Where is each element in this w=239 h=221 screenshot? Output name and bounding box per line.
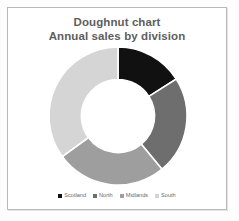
legend-swatch-scotland: [58, 194, 62, 198]
chart-legend: Scotland North Midlands South: [8, 193, 226, 199]
doughnut-plot-area: [8, 46, 228, 186]
chart-title-block: Doughnut chart Annual sales by division: [8, 15, 226, 43]
legend-item-midlands[interactable]: Midlands: [120, 193, 148, 199]
doughnut-slice-south[interactable]: [49, 47, 118, 157]
chart-screenshot: Doughnut chart Annual sales by division …: [0, 0, 239, 221]
chart-title: Doughnut chart: [8, 15, 226, 29]
legend-label-north: North: [99, 193, 113, 199]
legend-swatch-south: [155, 194, 159, 198]
legend-item-scotland[interactable]: Scotland: [58, 193, 86, 199]
legend-label-midlands: Midlands: [126, 193, 148, 199]
legend-item-south[interactable]: South: [155, 193, 176, 199]
chart-subtitle: Annual sales by division: [8, 29, 226, 43]
legend-label-south: South: [161, 193, 176, 199]
doughnut-slice-group: [49, 47, 187, 185]
legend-label-scotland: Scotland: [64, 193, 86, 199]
chart-frame: Doughnut chart Annual sales by division …: [7, 7, 227, 210]
legend-swatch-north: [93, 194, 97, 198]
doughnut-chart: [43, 46, 193, 186]
legend-item-north[interactable]: North: [93, 193, 113, 199]
legend-swatch-midlands: [120, 194, 124, 198]
